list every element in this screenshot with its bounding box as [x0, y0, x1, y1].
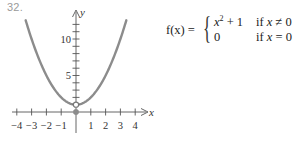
- y-tick-label: 10: [61, 34, 72, 45]
- x-tick-label: −1: [56, 120, 67, 131]
- case-2-value: 0: [214, 30, 220, 44]
- x-tick-label: 2: [103, 120, 108, 131]
- case-1-tail: + 1: [224, 15, 244, 29]
- case-2-expression: 0: [214, 30, 220, 45]
- filled-point: [73, 109, 78, 114]
- x-tick-label: 4: [133, 120, 139, 131]
- left-brace: {: [203, 13, 211, 44]
- formula-lhs: f(x) =: [166, 23, 195, 38]
- x-tick-label: −4: [11, 120, 23, 131]
- case-2-condition: if x = 0: [256, 30, 292, 45]
- x-tick-label: −2: [41, 120, 52, 131]
- case-1-condition: if x ≠ 0: [256, 15, 292, 30]
- x-axis-label: x: [148, 106, 154, 118]
- x-tick-label: 1: [88, 120, 93, 131]
- y-tick-label: 5: [66, 70, 71, 81]
- x-tick-label: 3: [118, 120, 123, 131]
- case-1-expression: x2 + 1: [214, 15, 243, 30]
- x-tick-label: −3: [26, 120, 37, 131]
- y-axis-label: y: [79, 6, 85, 18]
- graph: xy−4−3−2−11234510: [0, 0, 160, 146]
- open-circle-point: [73, 102, 78, 107]
